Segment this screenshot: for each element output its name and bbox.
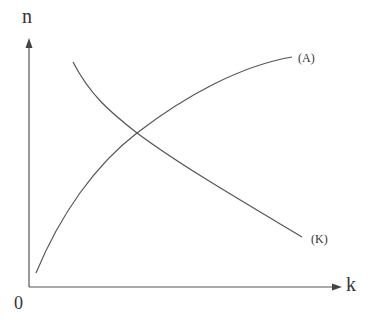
origin-label: 0 [14, 294, 23, 312]
curve-k-label: (K) [311, 233, 328, 245]
curve-a [36, 57, 292, 273]
curve-a-label: (A) [298, 52, 315, 64]
y-axis [26, 38, 33, 287]
diagram-canvas [0, 0, 374, 321]
y-axis-arrow-icon [26, 38, 33, 48]
curve-k [73, 62, 302, 237]
x-axis-label: k [346, 274, 356, 294]
y-axis-label: n [22, 6, 32, 26]
x-axis-arrow-icon [332, 284, 342, 291]
x-axis [29, 284, 342, 291]
